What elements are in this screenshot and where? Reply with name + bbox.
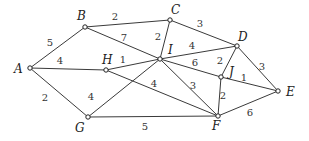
node-label-d: D <box>237 30 248 44</box>
edge-weight-g-i: 4 <box>88 91 94 102</box>
node-label-h: H <box>101 53 113 67</box>
node-label-c: C <box>171 3 180 17</box>
weighted-graph-diagram: 5422723416123443256 ABCDEFGHIJ <box>0 0 309 141</box>
edge-h-i <box>106 59 160 70</box>
edge-d-e <box>237 46 278 91</box>
node-h <box>104 68 108 72</box>
edge-weight-b-c: 2 <box>112 11 118 22</box>
edge-a-g <box>30 68 88 117</box>
node-label-f: F <box>211 119 221 133</box>
node-f <box>216 114 220 118</box>
edge-g-f <box>88 116 218 117</box>
edge-weight-a-g: 2 <box>42 92 48 103</box>
node-label-j: J <box>226 65 235 79</box>
node-label-a: A <box>13 62 23 76</box>
edge-a-h <box>30 68 106 70</box>
edge-weight-d-j: 2 <box>217 55 223 66</box>
node-g <box>86 115 90 119</box>
node-e <box>276 89 280 93</box>
edge-h-f <box>106 70 218 116</box>
edge-j-e <box>221 77 278 91</box>
edge-weight-c-i: 2 <box>155 31 161 42</box>
node-label-e: E <box>285 85 295 99</box>
edge-weight-i-f: 3 <box>190 80 196 91</box>
edge-weight-a-b: 5 <box>47 37 53 48</box>
node-b <box>83 25 87 29</box>
edge-weight-j-f: 2 <box>220 90 226 101</box>
node-label-g: G <box>75 121 85 135</box>
graph-svg: 5422723416123443256 ABCDEFGHIJ <box>0 0 309 141</box>
node-d <box>235 44 239 48</box>
edge-weight-d-e: 3 <box>259 61 265 72</box>
edge-weight-i-j: 6 <box>192 57 198 68</box>
node-label-i: I <box>167 43 173 57</box>
edge-c-d <box>170 20 237 46</box>
node-a <box>28 66 32 70</box>
edge-weight-i-d: 4 <box>189 40 195 51</box>
node-c <box>168 18 172 22</box>
edge-weight-a-h: 4 <box>57 55 63 66</box>
edge-weight-h-f: 4 <box>151 78 157 89</box>
edge-weight-f-e: 6 <box>247 107 253 118</box>
edge-b-c <box>85 20 170 27</box>
node-i <box>158 57 162 61</box>
node-j <box>219 75 223 79</box>
edge-weight-h-i: 1 <box>120 54 126 65</box>
node-label-b: B <box>76 9 86 23</box>
edge-weight-b-i: 7 <box>121 32 127 43</box>
edge-weight-j-e: 1 <box>241 72 247 83</box>
edge-weight-c-d: 3 <box>197 18 203 29</box>
edge-weight-g-f: 5 <box>142 121 148 132</box>
